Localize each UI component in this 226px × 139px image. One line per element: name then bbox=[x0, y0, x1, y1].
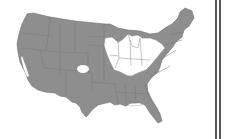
frame-line-left bbox=[215, 0, 217, 139]
unfilled-colorado-spot bbox=[77, 65, 89, 73]
frame-line-right bbox=[219, 0, 221, 139]
us-map bbox=[0, 0, 226, 139]
